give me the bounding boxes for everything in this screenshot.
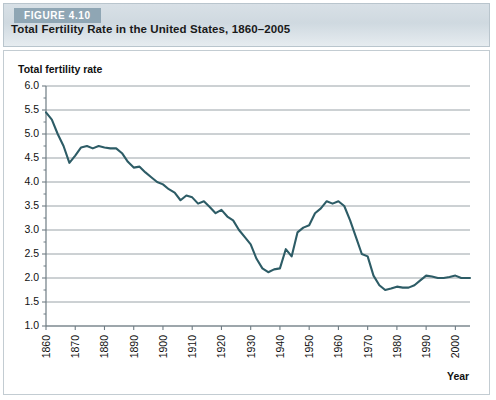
svg-text:1860: 1860 xyxy=(40,335,52,359)
svg-text:1.0: 1.0 xyxy=(24,319,39,331)
svg-text:1870: 1870 xyxy=(69,335,81,359)
svg-text:1980: 1980 xyxy=(391,335,403,359)
svg-text:4.0: 4.0 xyxy=(24,175,39,187)
svg-text:5.0: 5.0 xyxy=(24,127,39,139)
svg-text:1950: 1950 xyxy=(303,335,315,359)
svg-text:1940: 1940 xyxy=(274,335,286,359)
svg-text:1920: 1920 xyxy=(215,335,227,359)
fertility-rate-line xyxy=(46,112,470,290)
svg-text:3.0: 3.0 xyxy=(24,223,39,235)
y-tick-marks xyxy=(42,86,46,326)
svg-text:5.5: 5.5 xyxy=(24,103,39,115)
svg-text:1900: 1900 xyxy=(157,335,169,359)
svg-text:4.5: 4.5 xyxy=(24,151,39,163)
figure-container: FIGURE 4.10 Total Fertility Rate in the … xyxy=(0,0,496,400)
svg-text:1910: 1910 xyxy=(186,335,198,359)
svg-text:1960: 1960 xyxy=(332,335,344,359)
svg-text:2.5: 2.5 xyxy=(24,247,39,259)
svg-text:1990: 1990 xyxy=(420,335,432,359)
y-tick-labels: 1.01.52.02.53.03.54.04.55.05.56.0 xyxy=(24,79,39,331)
svg-text:2.0: 2.0 xyxy=(24,271,39,283)
svg-text:1880: 1880 xyxy=(98,335,110,359)
gridlines xyxy=(46,86,470,326)
svg-text:1970: 1970 xyxy=(362,335,374,359)
svg-text:3.5: 3.5 xyxy=(24,199,39,211)
svg-text:1.5: 1.5 xyxy=(24,295,39,307)
svg-text:2000: 2000 xyxy=(449,335,461,359)
svg-text:6.0: 6.0 xyxy=(24,79,39,91)
svg-text:1930: 1930 xyxy=(245,335,257,359)
svg-text:1890: 1890 xyxy=(128,335,140,359)
x-tick-labels: 1860187018801890190019101920193019401950… xyxy=(40,335,461,359)
chart-canvas: 1.01.52.02.53.03.54.04.55.05.56.0 186018… xyxy=(0,0,496,400)
